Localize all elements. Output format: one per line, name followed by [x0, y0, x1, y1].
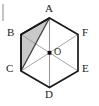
- vertex-label-b: B: [7, 27, 14, 38]
- vertex-label-c: C: [6, 63, 13, 74]
- vertex-label-d: D: [45, 89, 53, 100]
- vertex-label-f: F: [82, 27, 88, 38]
- center-label-o: O: [54, 47, 61, 57]
- vertex-label-e: E: [82, 63, 89, 74]
- center-point-dot: [48, 51, 52, 55]
- vertex-label-a: A: [45, 3, 53, 14]
- hexagon-figure: A B C D E F O: [0, 0, 99, 106]
